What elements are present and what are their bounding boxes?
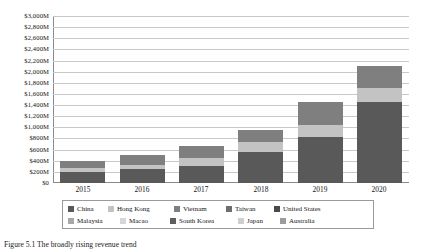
gridline <box>53 105 409 106</box>
bar-segment[interactable] <box>179 146 224 158</box>
gridline <box>53 72 409 73</box>
bar-column[interactable] <box>357 16 402 183</box>
bar-segment[interactable] <box>298 102 343 125</box>
bar-segment[interactable] <box>238 152 283 183</box>
legend-label: Hong Kong <box>117 205 150 213</box>
legend-label: Taiwan <box>235 205 256 213</box>
x-axis-tick-label: 2016 <box>112 185 172 194</box>
x-axis-tick-label: 2018 <box>231 185 291 194</box>
y-axis-tick-label: $1,800M <box>0 79 49 86</box>
gridline <box>53 16 409 17</box>
gridline <box>53 38 409 39</box>
y-axis-tick-label: $800M <box>0 134 49 141</box>
gridline <box>53 116 409 117</box>
bar-segment[interactable] <box>357 66 402 88</box>
legend-item[interactable]: South Korea <box>170 217 238 225</box>
y-axis-tick-label: $1,600M <box>0 90 49 97</box>
legend-swatch-icon <box>68 218 74 224</box>
legend-item[interactable]: Malaysia <box>68 217 120 225</box>
chart-legend: ChinaHong KongVietnamTaiwanUnited States… <box>62 200 374 229</box>
bar-column[interactable] <box>60 16 105 183</box>
gridline <box>53 161 409 162</box>
figure-caption: Figure 5.1 The broadly rising revenue tr… <box>4 240 434 249</box>
bar-segment[interactable] <box>179 166 224 183</box>
bar-segment[interactable] <box>120 169 165 183</box>
legend-label: Vietnam <box>183 205 207 213</box>
gridline <box>53 172 409 173</box>
legend-row-1: ChinaHong KongVietnamTaiwanUnited States <box>63 203 373 215</box>
bar-segment[interactable] <box>238 130 283 143</box>
bar-segment[interactable] <box>60 168 105 172</box>
bar-segment[interactable] <box>357 102 402 183</box>
legend-label: South Korea <box>179 217 214 225</box>
y-axis-tick-label: $3,000M <box>0 12 49 19</box>
gridline <box>53 61 409 62</box>
x-axis-tick-label: 2017 <box>171 185 231 194</box>
bar-column[interactable] <box>179 16 224 183</box>
y-axis-tick-label: $0 <box>0 179 49 186</box>
legend-swatch-icon <box>174 206 180 212</box>
y-axis-tick-label: $2,400M <box>0 45 49 52</box>
bar-segment[interactable] <box>238 142 283 151</box>
bar-segment[interactable] <box>60 172 105 183</box>
bar-column[interactable] <box>238 16 283 183</box>
y-axis-tick-label: $2,000M <box>0 68 49 75</box>
legend-item[interactable]: United States <box>274 205 321 213</box>
legend-label: Australia <box>289 217 315 225</box>
bar-segment[interactable] <box>120 155 165 164</box>
gridline <box>53 27 409 28</box>
legend-item[interactable]: Vietnam <box>174 205 226 213</box>
legend-label: Macao <box>129 217 148 225</box>
bar-segment[interactable] <box>357 88 402 102</box>
gridline <box>53 49 409 50</box>
bar-column[interactable] <box>298 16 343 183</box>
y-axis-tick-label: $1,200M <box>0 112 49 119</box>
gridline <box>53 127 409 128</box>
legend-item[interactable]: Hong Kong <box>108 205 174 213</box>
y-axis-tick-label: $2,800M <box>0 23 49 30</box>
legend-swatch-icon <box>238 218 244 224</box>
legend-swatch-icon <box>68 206 74 212</box>
y-axis-tick-label: $600M <box>0 146 49 153</box>
gridline <box>53 94 409 95</box>
legend-label: Malaysia <box>77 217 103 225</box>
bar-column[interactable] <box>120 16 165 183</box>
y-axis-tick-label: $400M <box>0 157 49 164</box>
gridline <box>53 138 409 139</box>
legend-label: China <box>77 205 94 213</box>
legend-item[interactable]: Japan <box>238 217 280 225</box>
bar-segment[interactable] <box>179 158 224 166</box>
y-axis-tick-label: $1,400M <box>0 101 49 108</box>
legend-swatch-icon <box>108 206 114 212</box>
bar-segment[interactable] <box>298 125 343 136</box>
y-axis-tick-label: $1,000M <box>0 123 49 130</box>
gridline <box>53 150 409 151</box>
legend-row-2: MalaysiaMacaoSouth KoreaJapanAustralia <box>63 215 373 227</box>
plot-area <box>53 16 409 183</box>
legend-item[interactable]: Taiwan <box>226 205 274 213</box>
legend-label: Japan <box>247 217 263 225</box>
legend-swatch-icon <box>274 206 280 212</box>
legend-item[interactable]: Australia <box>280 217 315 225</box>
bar-segment[interactable] <box>120 165 165 169</box>
legend-label: United States <box>283 205 321 213</box>
bar-segment[interactable] <box>298 137 343 183</box>
legend-item[interactable]: Macao <box>120 217 170 225</box>
legend-swatch-icon <box>226 206 232 212</box>
legend-item[interactable]: China <box>68 205 108 213</box>
y-axis-tick-label: $2,200M <box>0 57 49 64</box>
bar-segment[interactable] <box>60 161 105 168</box>
legend-swatch-icon <box>170 218 176 224</box>
legend-swatch-icon <box>120 218 126 224</box>
x-axis-tick-label: 2020 <box>349 185 409 194</box>
gridline <box>53 83 409 84</box>
chart-figure: $3,000M$2,800M$2,600M$2,400M$2,200M$2,00… <box>0 0 437 249</box>
legend-swatch-icon <box>280 218 286 224</box>
y-axis-tick-label: $200M <box>0 168 49 175</box>
x-axis-tick-label: 2015 <box>53 185 113 194</box>
y-axis-tick-label: $2,600M <box>0 34 49 41</box>
x-axis-tick-label: 2019 <box>290 185 350 194</box>
